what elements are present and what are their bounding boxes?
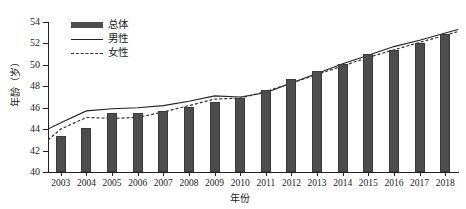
bar-total-2005 xyxy=(107,113,117,172)
x-axis-title: 年份 xyxy=(0,190,466,205)
bar-total-2018 xyxy=(440,34,450,172)
bar-total-2016 xyxy=(389,50,399,172)
x-axis-tick xyxy=(291,172,292,176)
x-axis-tick xyxy=(189,172,190,176)
bar-total-2006 xyxy=(133,113,143,172)
y-axis-tick xyxy=(43,108,48,109)
plot-area: 4042444648505254200320042005200620072008… xyxy=(48,22,458,172)
x-axis-tick xyxy=(343,172,344,176)
x-axis-tick xyxy=(266,172,267,176)
x-axis-tick xyxy=(61,172,62,176)
x-axis-tick xyxy=(86,172,87,176)
x-axis-tick xyxy=(112,172,113,176)
y-axis-title: 年龄（岁） xyxy=(7,47,22,117)
x-axis-tick xyxy=(163,172,164,176)
x-axis-tick xyxy=(420,172,421,176)
y-axis-tick xyxy=(43,86,48,87)
y-axis-tick-label: 48 xyxy=(22,80,40,91)
bar-total-2004 xyxy=(81,128,91,172)
bar-total-2003 xyxy=(56,136,66,172)
bar-total-2010 xyxy=(235,98,245,172)
y-axis-tick-label: 46 xyxy=(22,102,40,113)
x-axis-tick xyxy=(317,172,318,176)
bar-total-2012 xyxy=(286,79,296,172)
x-axis-tick xyxy=(215,172,216,176)
x-axis-tick xyxy=(240,172,241,176)
y-axis-tick xyxy=(43,22,48,23)
life-expectancy-chart: 年龄（岁） 年份 总体 男性 女性 4042444648505254200320… xyxy=(0,0,466,209)
y-axis-tick xyxy=(43,172,48,173)
bar-total-2017 xyxy=(415,43,425,172)
y-axis-tick-label: 52 xyxy=(22,37,40,48)
y-axis-tick-label: 44 xyxy=(22,123,40,134)
bar-total-2011 xyxy=(261,90,271,173)
y-axis-tick-label: 42 xyxy=(22,145,40,156)
x-axis-tick xyxy=(394,172,395,176)
y-axis-tick-label: 54 xyxy=(22,16,40,27)
y-axis-tick-label: 40 xyxy=(22,166,40,177)
y-axis-tick xyxy=(43,151,48,152)
y-axis-tick-label: 50 xyxy=(22,59,40,70)
x-axis-tick xyxy=(445,172,446,176)
x-axis-tick-label: 2018 xyxy=(430,178,460,188)
bar-total-2008 xyxy=(184,107,194,172)
y-axis-tick xyxy=(43,43,48,44)
bar-total-2013 xyxy=(312,71,322,172)
y-axis-tick xyxy=(43,129,48,130)
bar-total-2009 xyxy=(210,102,220,172)
x-axis-tick xyxy=(138,172,139,176)
bar-total-2007 xyxy=(158,111,168,172)
x-axis-tick xyxy=(368,172,369,176)
y-axis-tick xyxy=(43,65,48,66)
bar-total-2014 xyxy=(338,64,348,172)
bar-total-2015 xyxy=(363,54,373,172)
